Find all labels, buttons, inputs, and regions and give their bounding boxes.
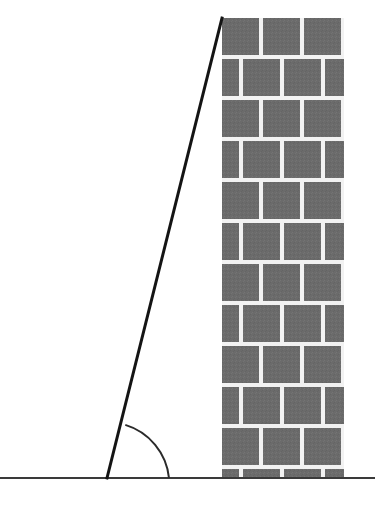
brick <box>263 264 300 301</box>
brick <box>284 305 321 342</box>
brick <box>263 18 300 55</box>
brick <box>304 18 341 55</box>
geometry-figure-svg <box>0 0 375 506</box>
brick <box>222 346 259 383</box>
brick-half <box>325 141 344 178</box>
brick <box>263 182 300 219</box>
brick-half <box>222 141 239 178</box>
brick <box>243 305 280 342</box>
brick-half <box>222 59 239 96</box>
brick-half <box>325 387 344 424</box>
brick <box>263 100 300 137</box>
brick <box>284 387 321 424</box>
brick <box>222 18 259 55</box>
brick <box>243 141 280 178</box>
brick-row <box>222 264 341 301</box>
brick-half <box>222 387 239 424</box>
brick <box>263 346 300 383</box>
brick-row <box>222 428 341 465</box>
brick-half <box>325 223 344 260</box>
brick-half <box>222 305 239 342</box>
brick <box>222 182 259 219</box>
brick-row <box>222 100 341 137</box>
brick-half <box>222 223 239 260</box>
brick <box>304 100 341 137</box>
brick <box>304 182 341 219</box>
brick <box>284 141 321 178</box>
brick <box>284 223 321 260</box>
brick <box>222 100 259 137</box>
brick <box>304 428 341 465</box>
brick <box>284 59 321 96</box>
brick <box>222 428 259 465</box>
brick-row <box>222 182 341 219</box>
brick-wall <box>222 18 344 506</box>
brick-row <box>222 18 341 55</box>
brick <box>243 387 280 424</box>
brick-half <box>325 59 344 96</box>
brick <box>304 264 341 301</box>
geometry-figure-canvas <box>0 0 375 506</box>
brick <box>222 264 259 301</box>
brick-half <box>325 305 344 342</box>
brick <box>243 223 280 260</box>
brick <box>243 59 280 96</box>
brick <box>263 428 300 465</box>
brick-row <box>222 346 341 383</box>
brick <box>304 346 341 383</box>
